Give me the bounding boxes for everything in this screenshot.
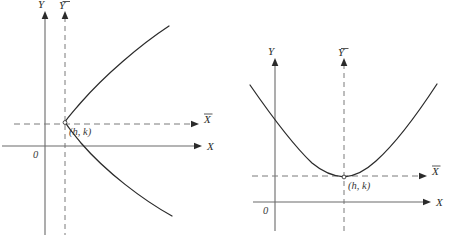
left-x-bar-axis-arrow-icon [191,121,199,128]
right-x-axis-label: X [435,196,444,208]
left-x-bar-axis: X [14,113,213,127]
left-y-bar-axis-arrow-icon [62,11,69,19]
right-x-bar-axis-arrow-icon [419,173,427,180]
left-y-axis-arrow-icon [42,11,49,19]
right-origin-label: 0 [263,205,269,216]
right-y-bar-axis: Y [338,46,349,231]
left-vertex-point [63,121,67,125]
left-x-axis-arrow-icon [194,143,202,150]
left-x-axis-label: X [206,140,215,152]
left-panel: Y Y X 0 X (h, k) [2,0,215,235]
right-y-bar-axis-arrow-icon [341,58,348,66]
left-origin-label: 0 [33,149,39,160]
left-vertex-label: (h, k) [69,126,92,138]
right-x-bar-axis-label: X [431,165,440,177]
left-x-axis: X 0 [2,140,215,160]
left-parabola-curve [65,26,172,216]
parabola-figure-canvas: Y Y X 0 X (h, k) [0,0,452,239]
right-x-axis-arrow-icon [423,199,431,206]
left-y-axis-label: Y [38,0,46,10]
right-y-axis-arrow-icon [272,58,279,66]
right-panel: Y Y X 0 X (h, k) [250,45,444,231]
right-y-bar-axis-label: Y [338,46,346,58]
left-y-axis: Y [38,0,48,235]
right-vertex-label: (h, k) [348,180,371,192]
right-y-axis: Y [268,45,278,231]
right-x-axis: X 0 [253,196,444,216]
right-y-axis-label: Y [268,45,276,57]
right-vertex-point [342,175,346,179]
left-x-bar-axis-label: X [203,113,212,125]
